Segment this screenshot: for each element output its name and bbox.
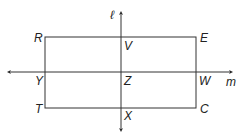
label-Z: Z <box>123 74 132 88</box>
label-E: E <box>200 31 209 45</box>
label-T: T <box>35 102 44 116</box>
label-R: R <box>34 31 43 45</box>
label-C: C <box>200 102 209 116</box>
label-m: m <box>226 75 236 89</box>
label-Y: Y <box>35 74 44 88</box>
label-W: W <box>199 74 212 88</box>
geometry-diagram: ℓ m R E V Y Z W T C X <box>0 0 242 139</box>
label-l: ℓ <box>110 8 115 22</box>
label-V: V <box>124 39 133 53</box>
label-X: X <box>123 109 133 123</box>
